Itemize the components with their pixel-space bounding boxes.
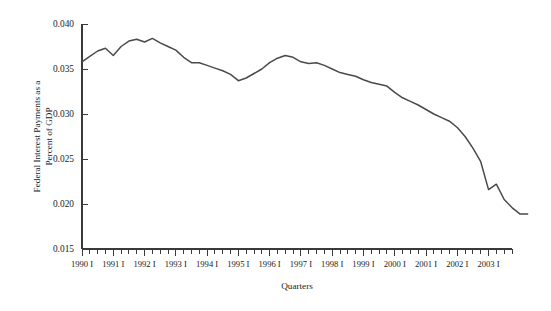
- x-tick-label: 1994 I: [196, 259, 218, 269]
- x-tick-label: 2002 I: [446, 259, 468, 269]
- x-tick-label: 1996 I: [259, 259, 281, 269]
- y-tick-label: 0.040: [53, 19, 74, 29]
- x-tick-label: 2000 I: [384, 259, 406, 269]
- line-chart: 0.0400.0350.0300.0250.0200.015 1990 I199…: [0, 0, 551, 311]
- y-axis: 0.0400.0350.0300.0250.0200.015: [53, 19, 88, 254]
- x-tick-label: 1999 I: [352, 259, 374, 269]
- y-tick-label: 0.030: [53, 109, 74, 119]
- y-axis-title-line2: Percent of GDP: [44, 107, 54, 165]
- x-tick-label: 1995 I: [227, 259, 249, 269]
- x-axis-title: Quarters: [281, 281, 313, 291]
- y-axis-title-line1: Federal Interest Payments as a: [32, 81, 42, 193]
- x-tick-label: 1991 I: [102, 259, 124, 269]
- series-line-interest-payments: [82, 38, 528, 214]
- y-tick-label: 0.020: [53, 199, 74, 209]
- x-axis: 1990 I1991 I1992 I1993 I1994 I1995 I1996…: [71, 249, 512, 269]
- x-tick-label: 1993 I: [165, 259, 187, 269]
- x-tick-label: 2001 I: [415, 259, 437, 269]
- x-tick-label: 1992 I: [133, 259, 155, 269]
- y-tick-label: 0.025: [53, 154, 74, 164]
- y-tick-label: 0.035: [53, 64, 74, 74]
- data-series: [82, 38, 528, 214]
- x-tick-label: 1997 I: [290, 259, 312, 269]
- x-tick-label: 1998 I: [321, 259, 343, 269]
- x-tick-label: 1990 I: [71, 259, 93, 269]
- y-tick-label: 0.015: [53, 244, 74, 254]
- chart-container: 0.0400.0350.0300.0250.0200.015 1990 I199…: [0, 0, 551, 311]
- x-tick-label: 2003 I: [477, 259, 499, 269]
